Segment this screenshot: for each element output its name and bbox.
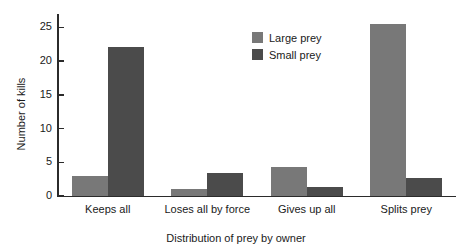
y-tick-label-text: 0 bbox=[20, 190, 52, 201]
category-label: Loses all by force bbox=[157, 203, 257, 216]
y-tick-label-text: 5 bbox=[20, 156, 52, 167]
y-tick-label: 15 bbox=[20, 89, 52, 100]
y-tick-label: 25 bbox=[20, 21, 52, 32]
bar-small-prey bbox=[406, 178, 442, 196]
category-label: Gives up all bbox=[257, 203, 357, 216]
y-tick-label-text: 25 bbox=[20, 21, 52, 32]
bar-group bbox=[171, 14, 243, 196]
y-tick-label-text: 20 bbox=[20, 55, 52, 66]
chart-legend: Large prey Small prey bbox=[252, 30, 372, 64]
legend-label: Small prey bbox=[269, 49, 321, 61]
bar-large-prey bbox=[171, 189, 207, 196]
bar-small-prey bbox=[307, 187, 343, 196]
x-axis-label: Distribution of prey by owner bbox=[0, 232, 472, 245]
y-tick-label: 10 bbox=[20, 123, 52, 134]
y-tick-label: 20 bbox=[20, 55, 52, 66]
y-tick-label-text: 15 bbox=[20, 89, 52, 100]
legend-item-large-prey: Large prey bbox=[252, 30, 372, 45]
bar-large-prey bbox=[72, 176, 108, 196]
bar-large-prey bbox=[370, 24, 406, 196]
y-tick-label: 5 bbox=[20, 156, 52, 167]
y-axis-label: Number of kills bbox=[12, 16, 30, 212]
y-tick-label: 0 bbox=[20, 190, 52, 201]
legend-swatch-icon bbox=[252, 32, 263, 43]
bar-group bbox=[72, 14, 144, 196]
legend-item-small-prey: Small prey bbox=[252, 47, 372, 62]
category-label: Keeps all bbox=[58, 203, 158, 216]
y-tick-label-text: 10 bbox=[20, 123, 52, 134]
category-label: Splits prey bbox=[356, 203, 456, 216]
bar-small-prey bbox=[108, 47, 144, 196]
bar-large-prey bbox=[271, 167, 307, 196]
bar-small-prey bbox=[207, 173, 243, 196]
legend-label: Large prey bbox=[269, 32, 322, 44]
bar-chart: Number of kills 0510152025 Keeps allLose… bbox=[0, 0, 472, 251]
legend-swatch-icon bbox=[252, 49, 263, 60]
bar-group bbox=[370, 14, 442, 196]
